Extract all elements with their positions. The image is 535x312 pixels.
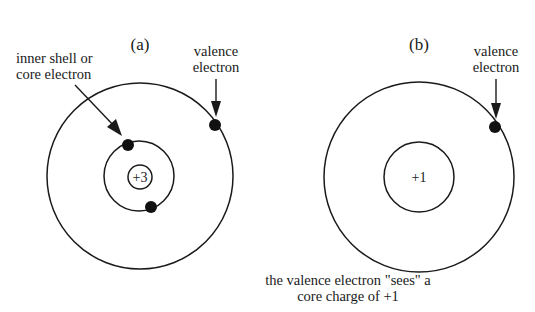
panel-b-label: (b) [409,35,429,54]
panel-b: (b) +1 valence electron [324,35,520,272]
core-electron-label-line2: core electron [16,66,92,82]
valence-label-a-line2: electron [193,59,240,75]
valence-arrow-a-icon [211,79,221,117]
core-electron-2 [145,201,157,213]
valence-label-a-line1: valence [194,43,238,59]
valence-electron-b [489,121,501,133]
nucleus-charge-a: +3 [133,170,148,185]
valence-arrow-b-icon [491,79,501,119]
atom-shell-diagram: (a) +3 inner shell or core electron vale… [0,0,535,312]
panel-a: (a) +3 inner shell or core electron vale… [16,35,240,269]
valence-label-b-line2: electron [473,59,520,75]
core-charge-b: +1 [412,170,427,185]
valence-electron-a [209,119,221,131]
panel-a-label: (a) [131,35,150,54]
core-electron-1 [122,139,134,151]
valence-label-b-line1: valence [474,43,518,59]
caption-line1: the valence electron "sees" a [265,272,431,288]
core-electron-label-line1: inner shell or [16,50,93,66]
caption-line2: core charge of +1 [297,288,399,304]
